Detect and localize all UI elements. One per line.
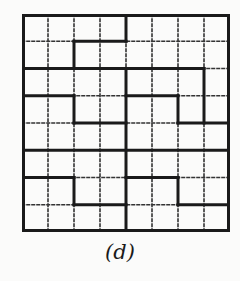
grid-diagram <box>22 14 230 232</box>
figure-caption: (d) <box>0 240 240 264</box>
